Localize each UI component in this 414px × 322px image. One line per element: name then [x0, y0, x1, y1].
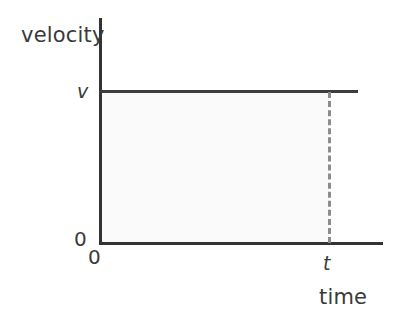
y-axis-line: [99, 18, 102, 245]
x-axis-title: time: [319, 287, 367, 308]
shaded-area-under-curve: [101, 93, 329, 243]
x-axis-tick-label-t: t: [323, 254, 330, 273]
x-axis-line: [99, 242, 383, 245]
x-axis-tick-label-zero: 0: [88, 247, 101, 267]
y-axis-tick-label-zero: 0: [74, 229, 87, 249]
velocity-time-graph: velocity v 0 0 t time: [0, 0, 414, 322]
dashed-drop-line-at-t: [328, 92, 331, 243]
y-axis-title: velocity: [21, 25, 105, 46]
y-axis-tick-label-v: v: [77, 82, 88, 101]
constant-velocity-line: [100, 90, 358, 93]
